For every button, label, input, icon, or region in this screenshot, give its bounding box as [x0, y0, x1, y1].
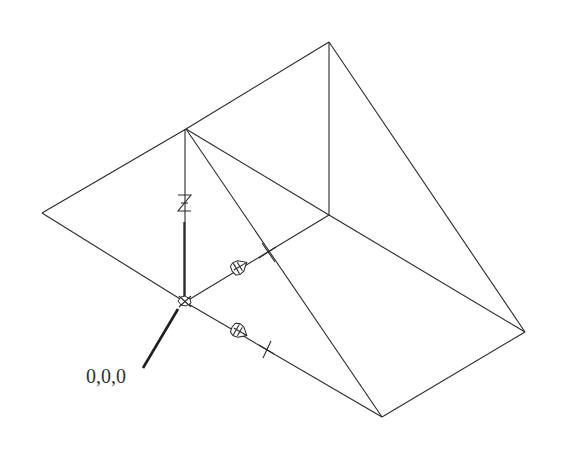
- x-tick-mark: [259, 341, 274, 358]
- origin-label: 0,0,0: [86, 365, 126, 387]
- edge-inner-right: [329, 215, 525, 332]
- wireframe-diagram: 0,0,0: [0, 0, 572, 466]
- x-tick-mark: [259, 243, 276, 262]
- edge-left-apex: [42, 129, 186, 213]
- ucs-origin-marker: [178, 296, 191, 307]
- origin-leader-line: [143, 309, 178, 368]
- edge-top-right: [329, 42, 525, 332]
- edge-origin-bottom: [185, 302, 382, 417]
- edge-apex-inner: [186, 129, 329, 215]
- wireframe-edges: [42, 42, 525, 417]
- edge-right-bottom: [382, 332, 525, 417]
- edge-apex-bottom: [186, 129, 382, 417]
- edge-left-origin: [42, 213, 185, 302]
- edge-apex-top: [186, 42, 329, 129]
- edge-origin-inner: [185, 215, 329, 302]
